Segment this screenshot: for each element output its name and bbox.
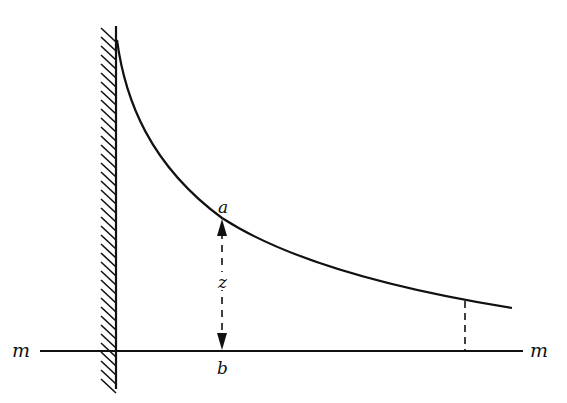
asymptotic-curve	[117, 40, 512, 308]
arrow-down-head	[217, 333, 227, 350]
label-point-a: a	[218, 197, 228, 217]
label-point-b: b	[217, 358, 228, 378]
wall-hatching	[101, 28, 116, 393]
arrow-up-head	[217, 219, 227, 236]
label-line-m-right: m	[530, 339, 548, 361]
label-height-z: z	[217, 272, 228, 292]
diagram-canvas: a b z m m	[0, 0, 567, 403]
label-line-m-left: m	[12, 339, 30, 361]
